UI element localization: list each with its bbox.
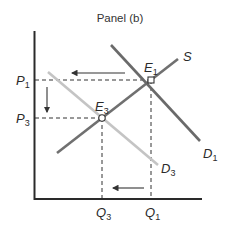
x-tick-q3: Q3: [96, 205, 111, 222]
d1-label: D1: [203, 146, 217, 163]
y-tick-p3: P3: [16, 111, 30, 128]
d3-label: D3: [161, 161, 175, 178]
x-tick-q1: Q1: [145, 205, 160, 222]
y-tick-p1: P1: [16, 73, 30, 90]
equilibrium-e1-marker: [148, 77, 154, 83]
supply-label: S: [183, 49, 192, 64]
panel-title: Panel (b): [97, 12, 144, 24]
guide-lines: [35, 80, 151, 199]
e1-label: E1: [144, 60, 158, 77]
e3-label: E3: [95, 99, 109, 116]
supply-demand-diagram: Panel (b) E1 E3 S D1 D3 P1 P3 Q3 Q1: [0, 0, 225, 234]
